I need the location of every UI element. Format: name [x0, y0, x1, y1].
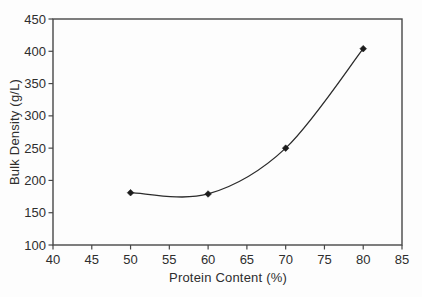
plot-frame [53, 19, 402, 245]
y-tick-label: 100 [24, 238, 46, 253]
line-chart: 4045505560657075808510015020025030035040… [0, 0, 422, 297]
x-tick-label: 85 [395, 252, 409, 267]
y-tick-label: 250 [24, 141, 46, 156]
x-tick-label: 40 [46, 252, 60, 267]
data-series-line [131, 49, 364, 197]
x-tick-label: 80 [356, 252, 370, 267]
plot-area: 4045505560657075808510015020025030035040… [24, 12, 409, 268]
data-point-marker [205, 191, 212, 198]
y-tick-label: 200 [24, 173, 46, 188]
y-tick-label: 300 [24, 108, 46, 123]
data-point-marker [127, 189, 134, 196]
y-tick-label: 450 [24, 12, 46, 27]
y-tick-label: 350 [24, 76, 46, 91]
x-tick-label: 75 [317, 252, 331, 267]
x-tick-label: 60 [201, 252, 215, 267]
x-axis-title: Protein Content (%) [169, 270, 287, 285]
y-tick-label: 400 [24, 44, 46, 59]
x-tick-label: 45 [85, 252, 99, 267]
x-tick-label: 70 [278, 252, 292, 267]
x-tick-label: 55 [162, 252, 176, 267]
y-axis-title: Bulk Density (g/L) [7, 79, 22, 185]
x-tick-label: 65 [240, 252, 254, 267]
x-tick-label: 50 [123, 252, 137, 267]
y-tick-label: 150 [24, 205, 46, 220]
chart-figure: 4045505560657075808510015020025030035040… [0, 0, 422, 297]
